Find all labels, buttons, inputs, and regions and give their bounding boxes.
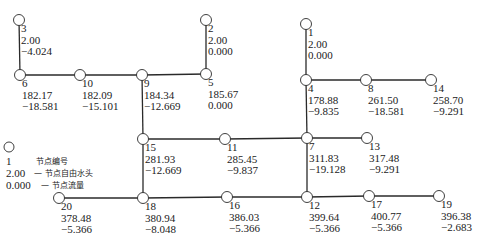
node-11-flow: −9.837	[227, 164, 258, 176]
node-8-flow: −18.581	[368, 105, 404, 117]
legend-head-example: 2.00	[6, 167, 26, 179]
node-17-id: 17	[371, 198, 383, 210]
node-2-flow: 0.000	[208, 45, 233, 57]
node-4-flow: −9.835	[308, 105, 339, 117]
node-6-flow: −18.581	[22, 100, 58, 112]
node-10-id: 10	[82, 77, 94, 89]
node-8-label: 8261.50−18.581	[368, 82, 404, 117]
pipe-network-diagram: 12.000.00022.000.00032.00−4.0244178.88−9…	[0, 0, 479, 247]
node-14-flow: −9.291	[433, 105, 464, 117]
node-1-id: 1	[308, 26, 314, 38]
node-9-label: 9184.34−12.669	[144, 77, 181, 112]
node-9-id: 9	[144, 77, 150, 89]
node-16-label: 16386.03−5.366	[229, 199, 260, 234]
node-3-id: 3	[21, 22, 27, 34]
node-10-flow: −15.101	[82, 100, 118, 112]
legend-node-id-desc: 节点编号	[36, 156, 68, 166]
labels-layer: 12.000.00022.000.00032.00−4.0244178.88−9…	[21, 22, 472, 235]
node-16-id: 16	[229, 199, 241, 211]
node-9-flow: −12.669	[144, 100, 181, 112]
pipe-9-5	[142, 74, 206, 75]
node-12-id: 12	[309, 199, 320, 211]
node-7-label: 7311.83−19.128	[309, 140, 346, 175]
node-19-flow: −2.683	[441, 221, 472, 233]
node-15-flow: −12.669	[145, 164, 182, 176]
node-19-id: 19	[441, 198, 453, 210]
node-8-id: 8	[368, 82, 374, 94]
node-14-label: 14258.70−9.291	[433, 82, 464, 117]
node-1-label: 12.000.000	[308, 26, 333, 61]
pipe-3-6	[19, 20, 20, 75]
node-1-flow: 0.000	[308, 49, 333, 61]
node-4-label: 4178.88−9.835	[308, 82, 339, 117]
legend: 1 节点编号 2.00 — 节点自由水头 0.000 — 节点流量	[4, 142, 93, 191]
node-3-flow: −4.024	[21, 45, 52, 57]
node-11-label: 11285.45−9.837	[227, 141, 258, 176]
pipe-9-15	[142, 75, 143, 139]
node-15-id: 15	[145, 141, 157, 153]
legend-node-circle-icon	[4, 142, 14, 152]
node-12-label: 12399.64−5.366	[309, 199, 340, 234]
node-20-id: 20	[61, 200, 73, 212]
node-17-label: 17400.77−5.366	[371, 198, 402, 233]
node-5-label: 5185.670.000	[208, 76, 239, 111]
node-5-flow: 0.000	[208, 99, 233, 111]
node-16-flow: −5.366	[229, 222, 260, 234]
node-2-id: 2	[208, 22, 214, 34]
pipe-12-17	[307, 196, 369, 197]
node-18-flow: −8.048	[145, 223, 176, 235]
node-19-label: 19396.38−2.683	[441, 198, 472, 233]
node-13-flow: −9.291	[369, 163, 400, 175]
pipe-18-16	[143, 197, 227, 198]
node-15-label: 15281.93−12.669	[145, 141, 182, 176]
node-7-id: 7	[309, 140, 315, 152]
legend-node-id-example: 1	[6, 155, 12, 167]
node-2-label: 22.000.000	[208, 22, 233, 57]
legend-flow-example: 0.000	[6, 179, 31, 191]
node-6-id: 6	[22, 77, 28, 89]
legend-head-desc: — 节点自由水头	[34, 168, 93, 178]
node-3-label: 32.00−4.024	[21, 22, 52, 57]
pipe-4-7	[306, 80, 307, 138]
node-20-label: 20378.48−5.366	[61, 200, 92, 235]
node-6-label: 6182.17−18.581	[22, 77, 58, 112]
legend-flow-desc: — 节点流量	[41, 180, 84, 190]
node-18-id: 18	[145, 200, 157, 212]
node-13-label: 13317.48−9.291	[369, 140, 400, 175]
node-10-label: 10182.09−15.101	[82, 77, 118, 112]
node-7-flow: −19.128	[309, 163, 346, 175]
node-14-id: 14	[433, 82, 445, 94]
node-5-id: 5	[208, 76, 214, 88]
node-20-flow: −5.366	[61, 223, 92, 235]
node-11-id: 11	[227, 141, 238, 153]
node-13-id: 13	[369, 140, 381, 152]
node-4-id: 4	[308, 82, 314, 94]
node-17-flow: −5.366	[371, 221, 402, 233]
node-18-label: 18380.94−8.048	[145, 200, 176, 235]
node-12-flow: −5.366	[309, 222, 340, 234]
pipe-11-7	[225, 138, 307, 139]
